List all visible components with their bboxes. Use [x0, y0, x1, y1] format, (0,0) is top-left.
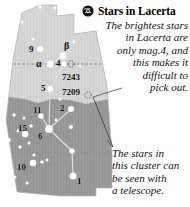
- star-alpha: [47, 61, 54, 68]
- caption-top: The brightest stars in Lacerta are only …: [60, 19, 188, 93]
- star-label-11: 11: [33, 106, 42, 115]
- page-title: Stars in Lacerta: [98, 5, 176, 17]
- star-label-5: 5: [41, 84, 46, 93]
- star-9: [37, 46, 43, 52]
- star-mid: [69, 148, 74, 153]
- caption-top-line-3: only mag.4, and: [60, 44, 188, 56]
- star-1: [70, 173, 77, 180]
- figure-title-row: Stars in Lacerta: [82, 5, 176, 17]
- caption-top-line-2: in Lacerta are: [60, 31, 188, 43]
- caption-top-line-4: this makes it: [60, 56, 188, 68]
- caption-top-line-6: pick out.: [60, 81, 188, 93]
- star-label-alpha: α: [36, 59, 42, 69]
- caption-bottom-line-2: this cluster can: [112, 159, 190, 171]
- star-2: [68, 106, 74, 112]
- caption-bottom-line-4: a telescope.: [112, 184, 190, 196]
- figure-root: 9 β α 4 7243 5 7209 2 11 15 6 10 1 Stars…: [0, 0, 190, 207]
- star-label-1: 1: [77, 177, 82, 186]
- star-6: [45, 125, 53, 133]
- caption-bottom-line-3: be seen with: [112, 172, 190, 184]
- star-label-9: 9: [29, 45, 34, 54]
- globe-icon: [82, 5, 94, 17]
- star-label-2: 2: [60, 104, 65, 113]
- caption-top-line-5: difficult to: [60, 69, 188, 81]
- caption-top-line-1: The brightest stars: [60, 19, 188, 31]
- star-10: [30, 160, 37, 167]
- star-5: [47, 86, 53, 92]
- caption-bottom-line-1: The stars in: [112, 147, 190, 159]
- star-label-6: 6: [38, 132, 43, 141]
- caption-bottom: The stars in this cluster can be seen wi…: [112, 147, 190, 197]
- star-label-15: 15: [18, 124, 27, 133]
- star-label-10: 10: [17, 163, 26, 172]
